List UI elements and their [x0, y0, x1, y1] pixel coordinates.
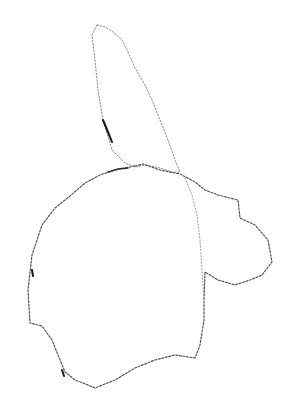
inner-divider-line	[185, 178, 204, 300]
upper-lobe-outline	[92, 25, 180, 172]
sketch-canvas	[0, 0, 292, 414]
dark-stroke-mark	[103, 120, 112, 142]
dark-stroke-mark	[62, 370, 64, 376]
sketch-drawing	[0, 0, 292, 414]
dark-stroke-mark	[108, 168, 128, 172]
main-body-outline	[28, 164, 272, 388]
dark-stroke-mark	[32, 270, 33, 276]
